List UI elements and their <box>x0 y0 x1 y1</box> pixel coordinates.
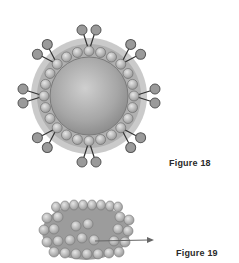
barrel-particle <box>39 200 154 260</box>
figure-19-caption: Figure 19 <box>176 248 218 258</box>
figure-18-caption: Figure 18 <box>169 158 211 168</box>
figure-18-diagram <box>0 0 239 263</box>
virus-particle <box>18 25 160 167</box>
